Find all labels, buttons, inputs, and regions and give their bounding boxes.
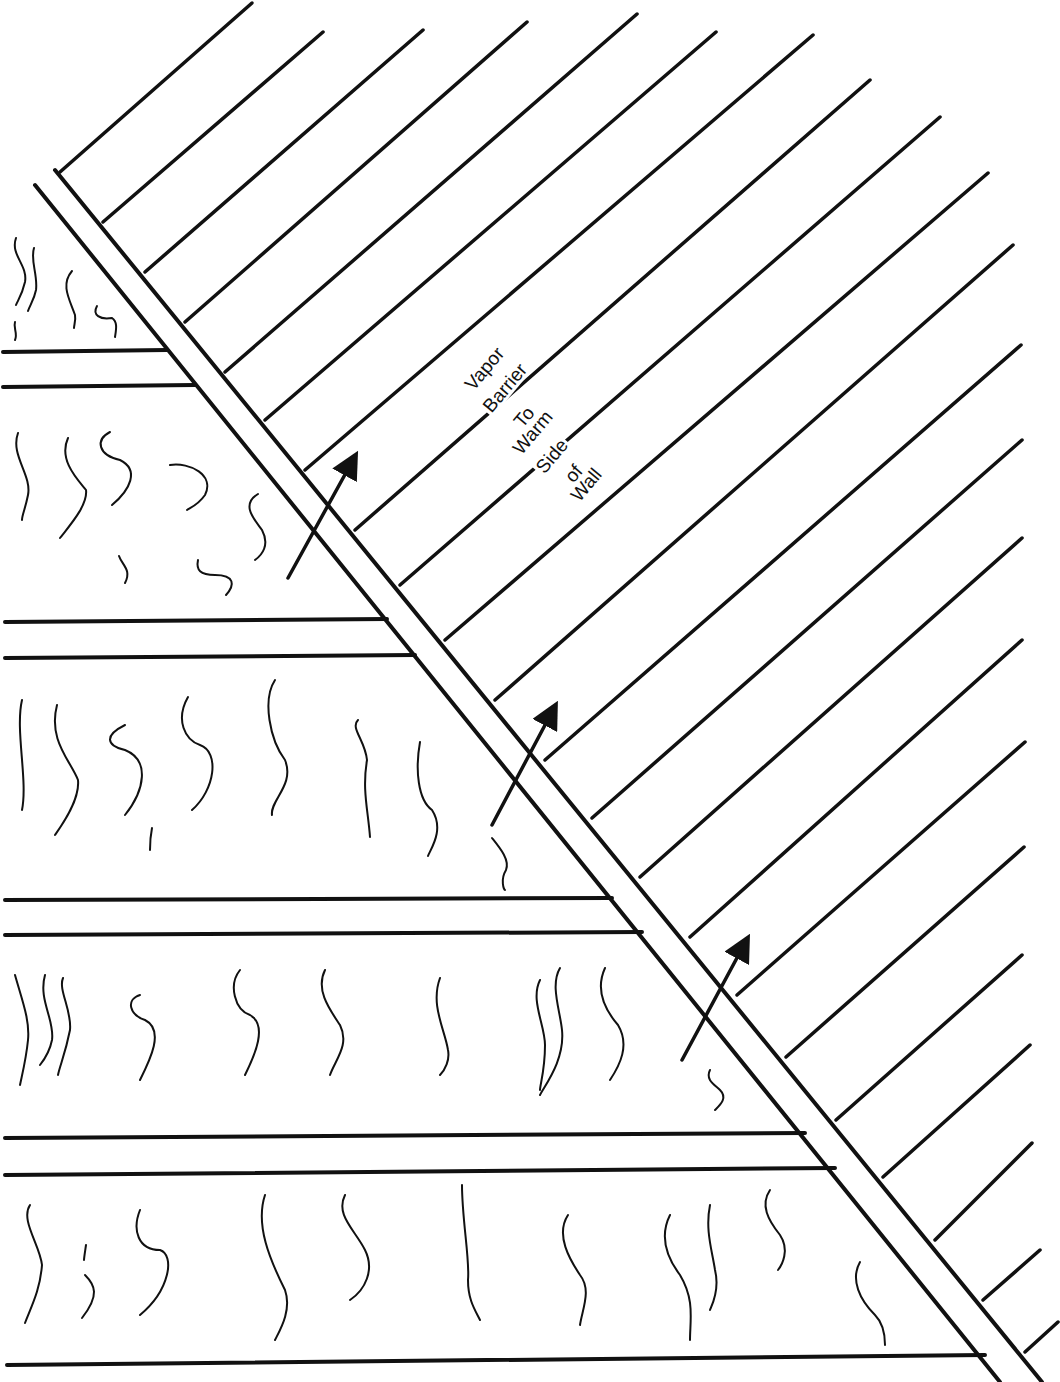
stud-line <box>3 350 167 352</box>
vapor-barrier-diagram <box>0 0 1060 1382</box>
stud-line <box>3 385 195 387</box>
stud-line <box>5 898 612 900</box>
